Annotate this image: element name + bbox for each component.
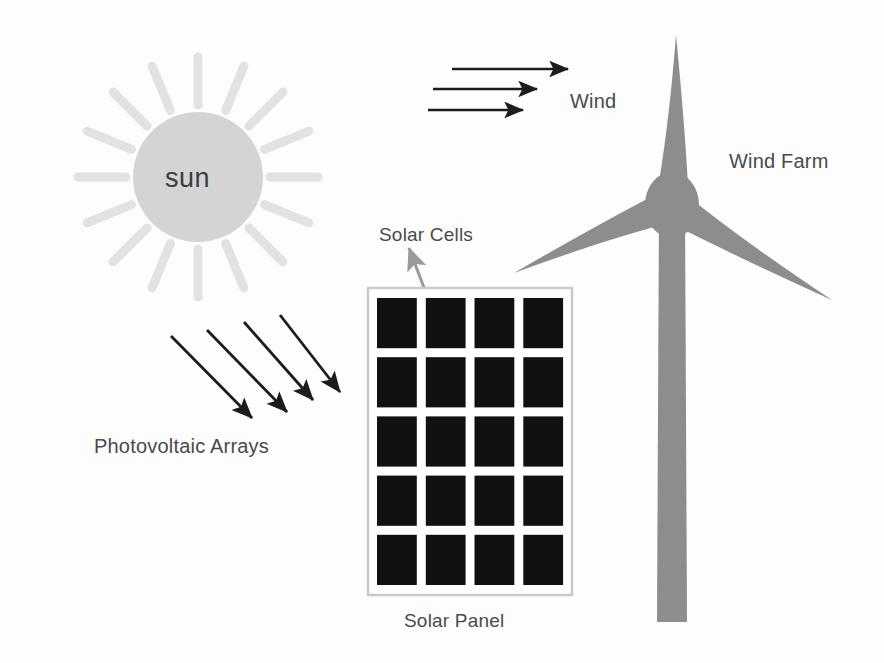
sun-label: sun [165,163,210,194]
sun-ray [152,66,170,110]
sunlight-arrow [207,330,287,412]
solar-cell [475,535,515,585]
sun-ray [113,228,147,262]
solar-cell [523,298,563,348]
solar-cell [426,535,466,585]
solar-cell [475,416,515,466]
solar-cell [475,357,515,407]
solar-cell [426,357,466,407]
wind-label: Wind [570,90,616,113]
sunlight-arrow-group [171,315,340,418]
solar-cell [377,357,417,407]
solar-cell [377,416,417,466]
solar-cell [377,476,417,526]
solar-cell [377,298,417,348]
sunlight-arrow [280,315,340,392]
wind-arrow-group [428,69,568,110]
turbine-tower [657,205,687,622]
sun-ray [87,205,131,223]
solar-cell [426,476,466,526]
sunlight-arrow [171,336,252,418]
solar-cell [523,416,563,466]
sun-ray [265,205,309,223]
sun-ray [265,131,309,149]
sun-ray [249,92,283,126]
solar-cell [377,535,417,585]
solar-cell [475,298,515,348]
solar-cell [475,476,515,526]
sun-ray [152,244,170,288]
solar-cell [523,357,563,407]
solar-cells-label: Solar Cells [379,224,473,246]
diagram-artwork [0,0,884,663]
solar-cell [523,535,563,585]
solar-panel-illustration [368,288,572,595]
wind-farm-label: Wind Farm [729,150,829,173]
diagram-canvas: sun Wind Wind Farm Solar Cells Photovolt… [0,0,884,663]
turbine-hub [645,172,699,238]
sun-ray [226,244,244,288]
solar-cell [426,416,466,466]
sun-ray [226,66,244,110]
sun-ray [113,92,147,126]
solar-cell [426,298,466,348]
sun-ray [87,131,131,149]
solar-panel-label: Solar Panel [404,610,504,632]
sun-ray [249,228,283,262]
photovoltaic-arrays-label: Photovoltaic Arrays [94,435,269,458]
solar-cell [523,476,563,526]
sunlight-arrow [244,322,313,400]
